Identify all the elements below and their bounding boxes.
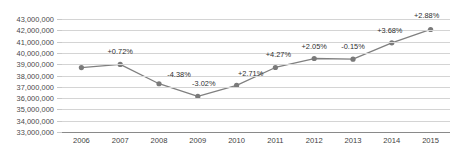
gridline xyxy=(62,121,450,122)
gridline xyxy=(62,87,450,88)
gridline xyxy=(62,64,450,65)
data-point-label: +2.88% xyxy=(414,11,439,20)
line-chart: 43,000,00042,000,00041,000,00040,000,000… xyxy=(0,0,458,162)
x-axis-line xyxy=(62,132,450,133)
data-point-marker xyxy=(312,56,317,61)
data-point-label: +4.27% xyxy=(266,50,291,59)
data-point-marker xyxy=(273,65,278,70)
gridline xyxy=(62,19,450,20)
gridline xyxy=(62,42,450,43)
series-markers xyxy=(79,27,433,99)
data-point-label: -3.02% xyxy=(192,79,215,88)
data-point-label: -0.15% xyxy=(341,42,364,51)
data-point-label: +2.71% xyxy=(238,69,263,78)
data-point-label: +3.68% xyxy=(377,25,402,34)
data-point-label: +2.05% xyxy=(302,41,327,50)
gridline xyxy=(62,109,450,110)
gridline xyxy=(62,98,450,99)
data-point-marker xyxy=(350,57,355,62)
data-point-label: +0.72% xyxy=(108,47,133,56)
data-point-marker xyxy=(156,81,161,86)
data-point-label: -4.38% xyxy=(167,69,190,78)
data-point-marker xyxy=(79,65,84,70)
